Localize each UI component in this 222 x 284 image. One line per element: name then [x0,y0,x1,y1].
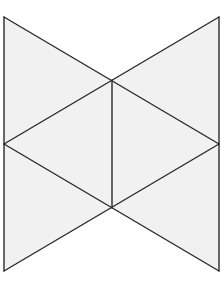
octahedron-net-diagram [0,0,222,284]
